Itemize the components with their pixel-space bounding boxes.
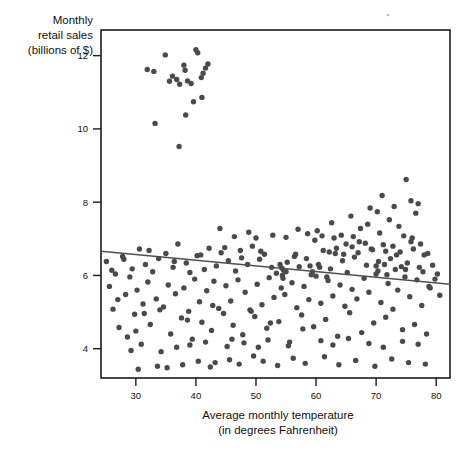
data-point — [121, 257, 126, 262]
data-point — [146, 248, 151, 253]
data-point — [379, 193, 384, 198]
data-point — [289, 280, 294, 285]
data-point — [366, 290, 371, 295]
data-point — [223, 283, 228, 288]
data-point — [363, 241, 368, 246]
x-tick-label: 60 — [311, 390, 322, 401]
data-point — [170, 265, 175, 270]
data-point — [184, 260, 189, 265]
data-point — [371, 320, 376, 325]
data-point — [313, 273, 318, 278]
data-point — [254, 282, 259, 287]
data-point — [246, 230, 251, 235]
data-point — [107, 284, 112, 289]
data-point — [268, 320, 273, 325]
data-point — [330, 293, 335, 298]
x-tick-label: 40 — [191, 390, 202, 401]
data-point — [256, 345, 261, 350]
data-point — [389, 356, 394, 361]
x-axis-title-line2: (in degrees Fahrenheit) — [218, 424, 338, 436]
data-point — [395, 287, 400, 292]
data-point — [348, 213, 353, 218]
data-point — [137, 246, 142, 251]
data-point — [351, 234, 356, 239]
data-point — [349, 244, 354, 249]
y-axis-title-line1: Monthly — [53, 14, 94, 26]
x-tick-label: 80 — [431, 390, 442, 401]
data-point — [202, 267, 207, 272]
data-point — [394, 252, 399, 257]
data-point — [218, 250, 223, 255]
data-point — [217, 226, 222, 231]
data-point — [324, 274, 329, 279]
data-point — [143, 262, 148, 267]
data-point — [216, 306, 221, 311]
data-point — [183, 112, 188, 117]
data-point — [260, 358, 265, 363]
data-point — [406, 360, 411, 365]
data-point — [187, 342, 192, 347]
data-point — [228, 298, 233, 303]
data-point — [212, 360, 217, 365]
data-point — [403, 267, 408, 272]
x-tick-label: 30 — [131, 390, 142, 401]
data-point — [155, 364, 160, 369]
data-point — [250, 243, 255, 248]
data-point — [403, 177, 408, 182]
data-point — [424, 331, 429, 336]
data-point — [179, 315, 184, 320]
scan-speck-artifact — [387, 14, 389, 16]
data-point — [214, 263, 219, 268]
data-point — [286, 343, 291, 348]
data-point — [383, 249, 388, 254]
y-tick-label: 10 — [77, 123, 88, 134]
data-point — [150, 269, 155, 274]
data-point — [408, 198, 413, 203]
data-point — [327, 249, 332, 254]
data-point — [110, 306, 115, 311]
data-point — [142, 311, 147, 316]
data-point — [170, 73, 175, 78]
data-point — [331, 235, 336, 240]
data-point — [385, 281, 390, 286]
data-point — [423, 361, 428, 366]
data-point — [358, 226, 363, 231]
data-point — [132, 312, 137, 317]
data-point — [175, 241, 180, 246]
data-point — [209, 328, 214, 333]
data-point — [321, 248, 326, 253]
data-point — [330, 342, 335, 347]
data-point — [378, 300, 383, 305]
data-point — [227, 357, 232, 362]
data-point — [177, 82, 182, 87]
data-point — [180, 362, 185, 367]
data-point — [265, 337, 270, 342]
data-point — [405, 260, 410, 265]
data-point — [291, 356, 296, 361]
data-point — [128, 348, 133, 353]
data-point — [205, 61, 210, 66]
data-point — [411, 246, 416, 251]
data-point — [415, 342, 420, 347]
data-point — [343, 241, 348, 246]
data-point — [347, 310, 352, 315]
data-point — [333, 251, 338, 256]
data-point — [130, 266, 135, 271]
data-point — [390, 243, 395, 248]
data-point — [192, 276, 197, 281]
data-point — [393, 267, 398, 272]
data-point — [283, 235, 288, 240]
data-point — [163, 251, 168, 256]
data-point — [377, 230, 382, 235]
data-point — [145, 67, 150, 72]
data-point — [229, 336, 234, 341]
data-point — [420, 269, 425, 274]
data-point — [280, 276, 285, 281]
data-point — [285, 260, 290, 265]
data-point — [251, 353, 256, 358]
y-axis-title-line2: retail sales — [38, 29, 93, 41]
data-point — [274, 271, 279, 276]
data-point — [346, 336, 351, 341]
data-point — [388, 256, 393, 261]
data-point — [417, 265, 422, 270]
